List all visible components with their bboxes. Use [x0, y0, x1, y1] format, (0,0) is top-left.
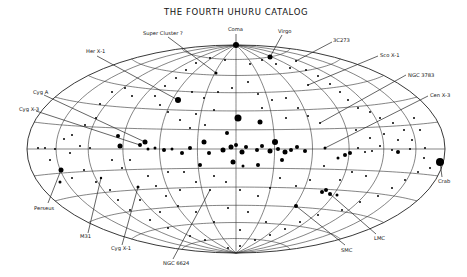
xray-source-dot — [284, 228, 286, 230]
xray-source-dot — [355, 129, 357, 131]
xray-source-dot — [269, 187, 271, 189]
xray-source-dot — [317, 214, 319, 216]
xray-source-dot — [247, 81, 249, 83]
xray-source-dot — [383, 133, 385, 135]
xray-source-dot — [221, 148, 226, 153]
xray-source-dot — [167, 171, 169, 173]
xray-source-dot — [392, 122, 394, 124]
xray-source-dot — [328, 192, 332, 196]
xray-source-dot — [227, 207, 229, 209]
xray-source-dot — [348, 151, 352, 155]
xray-source-dot — [294, 204, 298, 208]
xray-source-dot — [224, 59, 226, 61]
xray-source-dot — [359, 201, 361, 203]
xray-source-dot — [254, 239, 256, 241]
xray-source-dot — [268, 149, 273, 154]
leader-line — [308, 56, 378, 85]
xray-source-dot — [49, 159, 51, 161]
xray-source-dot — [195, 181, 197, 183]
xray-source-dot — [289, 67, 291, 69]
source-label: 3C273 — [333, 37, 350, 43]
xray-source-dot — [343, 153, 347, 157]
xray-source-dot — [391, 149, 393, 151]
leader-line — [330, 194, 376, 234]
source-label: Cyg X-3 — [19, 106, 39, 113]
xray-source-dot — [188, 146, 192, 150]
xray-source-dot — [295, 60, 297, 62]
xray-source-dot — [275, 63, 277, 65]
xray-source-dot — [249, 63, 251, 65]
xray-source-dot — [417, 171, 419, 173]
xray-source-dot — [121, 167, 123, 169]
xray-source-dot — [100, 177, 102, 179]
xray-source-dot — [185, 69, 187, 71]
leader-line — [270, 35, 282, 57]
xray-source-dot — [255, 148, 259, 152]
xray-source-dot — [215, 72, 218, 75]
xray-source-dot — [154, 95, 156, 97]
xray-source-dot — [147, 175, 149, 177]
xray-source-dot — [99, 103, 101, 105]
xray-source-dot — [429, 167, 431, 169]
xray-source-dot — [118, 144, 123, 149]
xray-source-dot — [240, 150, 245, 155]
xray-source-dot — [71, 134, 73, 136]
xray-source-dot — [369, 137, 371, 139]
xray-source-dot — [257, 195, 259, 197]
xray-source-dot — [109, 189, 111, 191]
xray-source-dot — [235, 115, 242, 122]
xray-source-dot — [131, 95, 133, 97]
xray-source-dot — [265, 221, 267, 223]
source-label: Virgo — [278, 28, 291, 35]
xray-source-dot — [297, 107, 299, 109]
xray-source-dot — [83, 169, 85, 171]
xray-source-dot — [247, 211, 249, 213]
xray-source-dot — [111, 91, 113, 93]
leader-line — [168, 37, 216, 73]
xray-source-dot — [204, 124, 206, 126]
xray-source-dot — [307, 84, 309, 86]
xray-source-dot — [84, 124, 86, 126]
map-title: THE FOURTH UHURU CATALOG — [163, 7, 308, 17]
xray-source-dot — [324, 147, 327, 150]
xray-source-dot — [155, 185, 157, 187]
xray-source-dot — [139, 199, 141, 201]
xray-source-dot — [203, 97, 205, 99]
xray-source-dot — [195, 211, 197, 213]
xray-source-dot — [143, 140, 148, 145]
source-label: Super Cluster ? — [143, 30, 183, 37]
xray-source-dot — [180, 151, 184, 155]
xray-source-dot — [229, 145, 234, 150]
xray-source-dot — [324, 188, 328, 192]
xray-source-dot — [59, 168, 64, 173]
xray-source-dot — [137, 186, 140, 189]
xray-source-dot — [268, 55, 273, 60]
xray-source-dot — [225, 181, 227, 183]
xray-source-dot — [295, 185, 297, 187]
source-label: Cyg A — [33, 89, 49, 96]
source-label: Sco X-1 — [380, 52, 399, 58]
xray-source-dot — [59, 181, 62, 184]
source-label: Perseus — [34, 205, 54, 211]
leader-line — [173, 190, 210, 259]
xray-source-dot — [419, 129, 421, 131]
xray-source-dot — [89, 147, 91, 149]
xray-source-dot — [117, 199, 119, 201]
xray-source-dot — [397, 139, 399, 141]
xray-source-dot — [111, 159, 113, 161]
xray-source-dot — [209, 57, 211, 59]
xray-source-dot — [285, 117, 287, 119]
xray-source-dot — [189, 235, 191, 237]
xray-source-dot — [239, 189, 241, 191]
xray-source-dot — [244, 145, 248, 149]
xray-source-dot — [44, 147, 46, 149]
xray-source-dot — [167, 111, 169, 113]
xray-source-dot — [159, 104, 161, 106]
xray-source-dot — [147, 148, 150, 151]
xray-source-dot — [280, 158, 284, 162]
xray-source-dot — [138, 143, 142, 147]
xray-source-dot — [295, 145, 299, 149]
xray-source-dot — [234, 143, 238, 147]
xray-source-dot — [159, 211, 161, 213]
label-leaders — [36, 34, 442, 259]
